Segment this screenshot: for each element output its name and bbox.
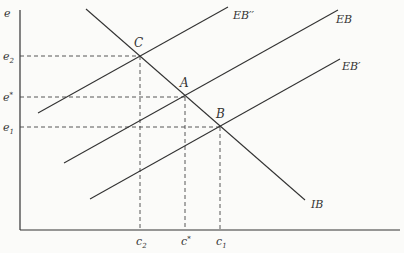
point-B-label: B [215, 107, 225, 121]
x-tick-c2: c2 [136, 235, 147, 250]
y-axis-label: e [4, 7, 11, 20]
y-tick-e1: e1 [3, 121, 14, 136]
curve-EB-prime [90, 59, 340, 199]
curve-IB [86, 9, 305, 200]
label-EB: EB [335, 13, 352, 26]
y-tick-estar: e* [3, 91, 14, 104]
diagram: e EB′′ EB EB′ IB C A B e2 e* e1 c2 c* c1 [0, 0, 404, 253]
label-EB-double-prime: EB′′ [232, 9, 255, 22]
y-tick-e2: e2 [3, 50, 15, 65]
point-C-label: C [134, 36, 143, 50]
label-EB-prime: EB′ [341, 60, 361, 73]
x-tick-c1: c1 [216, 235, 227, 250]
curve-EB [64, 10, 338, 163]
x-tick-cstar: c* [181, 235, 191, 248]
point-A-label: A [179, 76, 189, 90]
label-IB: IB [310, 198, 323, 211]
